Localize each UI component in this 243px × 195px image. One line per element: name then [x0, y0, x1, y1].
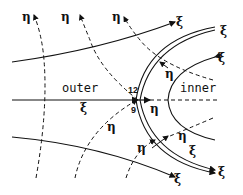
xi-label: ξ — [189, 144, 196, 158]
number-12: 12 — [128, 85, 138, 95]
outer-label: outer — [62, 81, 98, 95]
xi-label: ξ — [80, 101, 87, 115]
eta-label: η — [137, 141, 146, 155]
xi-label: ξ — [218, 165, 225, 179]
eta-label: η — [61, 10, 70, 24]
xi-label: ξ — [174, 172, 181, 186]
inner-label: inner — [180, 81, 216, 95]
diagram-canvas: η η η ξ ξ ξ η outer inner 12 9 ξ η η η η… — [0, 0, 243, 195]
eta-label: η — [178, 129, 187, 143]
xi-label: ξ — [220, 24, 227, 38]
eta-label: η — [112, 10, 121, 24]
eta-line-1 — [34, 15, 45, 178]
coordinate-diagram: η η η ξ ξ ξ η outer inner 12 9 ξ η η η η… — [0, 0, 243, 195]
eta-label: η — [22, 10, 31, 24]
eta-label: η — [165, 67, 174, 81]
eta-line-6 — [165, 118, 213, 138]
xi-line-top — [12, 22, 175, 62]
eta-label: η — [150, 102, 159, 116]
eta-label: η — [107, 120, 116, 134]
xi-label: ξ — [218, 51, 225, 65]
number-9: 9 — [131, 105, 136, 115]
xi-label: ξ — [176, 15, 183, 29]
